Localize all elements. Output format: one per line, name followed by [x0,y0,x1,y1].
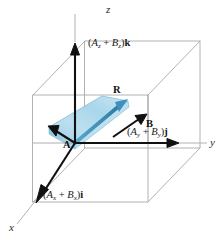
z-label-a-sub: z [98,42,101,50]
x-label-b-sub: x [74,194,77,202]
box-edge-top-right [148,41,200,95]
x-component-label: (Ax + Bx)i [43,190,83,201]
vector-label-a: A [63,140,71,151]
axis-label-z: z [106,4,110,15]
axis-label-y: y [210,137,215,148]
z-label-unit-vector: k [124,37,130,48]
y-label-a-sub: y [137,131,140,139]
x-label-a: A [47,189,53,200]
z-component-label: (Az + Bz)k [88,38,130,49]
vector-addition-figure: z y x (Az + Bz)k (Ay + By)j (Ax + Bx)i R… [0,0,223,237]
z-label-b-sub: z [118,42,121,50]
y-label-b-sub: y [158,131,161,139]
y-label-a: A [131,126,137,137]
x-label-unit-vector: i [80,189,83,200]
z-label-plus: + [101,37,112,48]
x-label-a-sub: x [53,194,56,202]
vector-diagram-canvas [0,0,223,237]
x-axis-extension [17,200,36,224]
z-label-a: A [92,37,98,48]
box-edge-bottom-right [148,148,200,202]
vector-label-b: B [146,119,153,130]
x-label-plus: + [56,189,67,200]
x-label-b: B [67,189,73,200]
y-component-arrow [75,139,179,148]
axis-label-x: x [9,222,14,233]
y-label-unit-vector: j [164,126,168,137]
vector-label-r: R [113,85,121,96]
